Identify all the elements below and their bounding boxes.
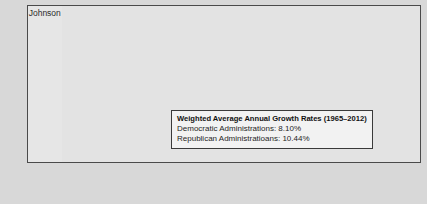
legend-democratic: Democratic Administrations: 8.10% (177, 124, 367, 134)
legend-box: Weighted Average Annual Growth Rates (19… (171, 110, 373, 149)
chart-root: Johnson Weighted Average Annual Growth R… (0, 0, 427, 204)
legend-republican: Republican Administratioans: 10.44% (177, 134, 367, 144)
legend-title: Weighted Average Annual Growth Rates (19… (177, 114, 367, 124)
